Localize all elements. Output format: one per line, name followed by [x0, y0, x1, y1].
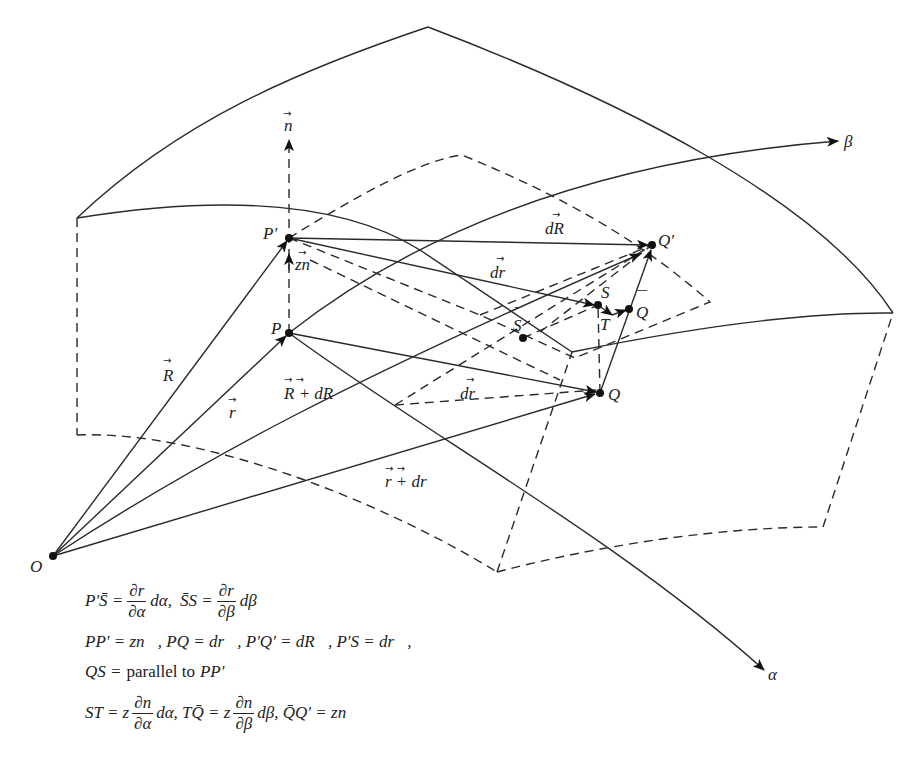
base-surface-bottom-edge — [497, 527, 823, 572]
offset-patch-inner-3 — [480, 245, 652, 315]
label-Q-bar: Q — [636, 303, 648, 322]
label-R-plus-dR: R + dR — [283, 384, 334, 403]
label-Q-prime: Q′ — [658, 231, 674, 250]
fraction-dn-dalpha: ∂n ∂α — [132, 693, 153, 734]
label-R: R — [162, 366, 174, 385]
formula-block: P′S̄ = ∂r ∂α dα, S̄S = ∂r ∂β dβ PP′ = zn… — [85, 575, 412, 739]
point-Q-bar — [625, 305, 633, 313]
base-surface-right-edge — [823, 313, 893, 527]
label-P-prime: P′ — [262, 224, 277, 243]
vector-dR — [289, 238, 648, 245]
label-dR: dR — [545, 219, 565, 238]
label-r: r — [229, 403, 236, 422]
formula-1-dbeta: dβ — [240, 591, 257, 611]
label-P: P — [270, 319, 281, 338]
formula-line-2: PP′ = zn⃗, PQ = dr⃗, P′Q′ = dR⃗, P′S = d… — [85, 627, 412, 657]
point-Q-prime — [648, 241, 656, 249]
S-bar-mark: ‾ — [514, 306, 521, 317]
fraction-dr-dalpha: ∂r ∂α — [127, 581, 146, 622]
dr-lower-vec-mark: → — [466, 374, 474, 385]
r-plus-dr-vec-mark: → → — [385, 463, 405, 474]
formula-line-3: QS = parallel to PP′ — [85, 657, 412, 687]
R-vec-mark: → — [163, 355, 171, 366]
label-T: T — [600, 315, 611, 334]
formula-3-text: parallel to — [127, 662, 195, 682]
formula-4-mid: dα, TQ̄ = z — [156, 703, 230, 723]
vector-R — [53, 241, 287, 556]
vector-dr-lower — [289, 333, 596, 392]
offset-patch-inner-5 — [523, 305, 598, 338]
formula-4-rhs: dβ, Q̄Q′ = zn⃗ — [257, 703, 359, 723]
label-O: O — [30, 557, 42, 576]
point-Q — [596, 389, 604, 397]
dr-upper-vec-mark: → — [496, 253, 504, 264]
formula-3-rhs: PP′ — [200, 662, 225, 682]
n-vec-mark: → — [283, 108, 291, 119]
formula-1-lhs: P′S̄ = — [85, 591, 123, 611]
point-P — [285, 329, 293, 337]
point-S-bar — [519, 334, 527, 342]
formula-4-lhs: ST = z — [85, 703, 129, 723]
formula-1-rhs: S̄S = — [180, 591, 213, 611]
point-O — [49, 552, 57, 560]
formula-1-dalpha: dα, — [150, 591, 172, 611]
formula-2-text: PP′ = zn⃗, PQ = dr⃗, P′Q′ = dR⃗, P′S = d… — [85, 632, 412, 652]
label-dr-upper: dr — [490, 263, 506, 282]
label-Q: Q — [608, 385, 620, 404]
point-P-prime — [285, 234, 293, 242]
formula-line-1: P′S̄ = ∂r ∂α dα, S̄S = ∂r ∂β dβ — [85, 575, 412, 627]
formula-line-4: ST = z ∂n ∂α dα, TQ̄ = z ∂n ∂β dβ, Q̄Q′ … — [85, 687, 412, 739]
offset-patch-inner-6 — [395, 245, 652, 405]
label-r-plus-dr: r + dr — [385, 472, 427, 491]
label-S: S — [601, 283, 610, 302]
vector-R-plus-dR — [53, 254, 640, 556]
R-plus-dR-vec-mark: → → — [284, 374, 304, 385]
dR-vec-mark: → — [552, 209, 560, 220]
outer-surface-right-edge — [572, 313, 893, 352]
zn-vec-mark: → — [298, 247, 306, 258]
vector-r-plus-dr — [53, 394, 595, 556]
point-S — [594, 301, 602, 309]
r-vec-mark: → — [228, 394, 236, 405]
fraction-dn-dbeta: ∂n ∂β — [233, 693, 254, 734]
Q-bar-mark: ‾‾ — [636, 289, 648, 300]
fraction-dr-dbeta: ∂r ∂β — [217, 581, 236, 622]
label-alpha: α — [768, 665, 778, 684]
base-surface-front-edge — [77, 435, 497, 572]
label-dr-lower: dr — [460, 384, 476, 403]
outer-surface-top-edge-left — [77, 27, 428, 218]
vector-TQbar — [612, 310, 626, 315]
label-beta: β — [843, 132, 853, 151]
label-S-bar: S — [513, 316, 522, 335]
formula-3-lhs: QS = — [85, 662, 122, 682]
offset-patch-inner-1 — [289, 238, 575, 358]
offset-patch-inner-2 — [310, 260, 560, 380]
vector-dr-upper — [289, 238, 594, 305]
